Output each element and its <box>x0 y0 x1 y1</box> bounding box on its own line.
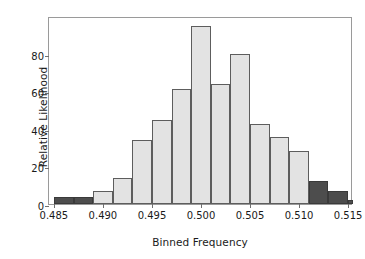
x-tick-label: 0.510 <box>285 210 314 221</box>
histogram-bar <box>309 181 329 204</box>
histogram-bar <box>211 84 231 204</box>
x-axis-title: Binned Frequency <box>48 236 352 248</box>
histogram-bar <box>270 137 290 204</box>
x-tick-mark <box>348 204 349 208</box>
histogram-bar <box>289 151 309 204</box>
histogram-bar <box>172 89 192 204</box>
x-tick-label: 0.485 <box>40 210 69 221</box>
x-tick-mark <box>152 204 153 208</box>
y-tick-mark <box>45 168 49 169</box>
x-tick-label: 0.505 <box>236 210 265 221</box>
histogram-bar <box>74 197 94 204</box>
y-tick-mark <box>45 131 49 132</box>
y-tick-label: 40 <box>31 125 44 136</box>
x-tick-mark <box>201 204 202 208</box>
y-tick-label: 20 <box>31 163 44 174</box>
y-tick-label: 80 <box>31 50 44 61</box>
histogram-bar <box>191 26 211 204</box>
bars-layer <box>49 18 351 204</box>
plot-area: 020406080 0.4850.4900.4950.5000.5050.510… <box>48 17 352 205</box>
histogram-bar <box>348 200 353 204</box>
histogram-bar <box>328 191 348 204</box>
histogram-bar <box>152 120 172 204</box>
x-tick-label: 0.495 <box>138 210 167 221</box>
x-tick-mark <box>250 204 251 208</box>
y-tick-mark <box>45 56 49 57</box>
x-tick-mark <box>103 204 104 208</box>
x-tick-label: 0.515 <box>334 210 363 221</box>
histogram-bar <box>113 178 133 204</box>
histogram-figure: Relative Likelihood 020406080 0.4850.490… <box>0 0 365 259</box>
x-tick-label: 0.500 <box>187 210 216 221</box>
y-tick-label: 60 <box>31 88 44 99</box>
histogram-bar <box>54 197 74 204</box>
histogram-bar <box>132 140 152 204</box>
x-tick-mark <box>299 204 300 208</box>
x-tick-mark <box>54 204 55 208</box>
y-tick-mark <box>45 93 49 94</box>
histogram-bar <box>93 191 113 204</box>
y-tick-mark <box>45 206 49 207</box>
histogram-bar <box>230 54 250 204</box>
histogram-bar <box>250 124 270 204</box>
x-tick-label: 0.490 <box>89 210 118 221</box>
